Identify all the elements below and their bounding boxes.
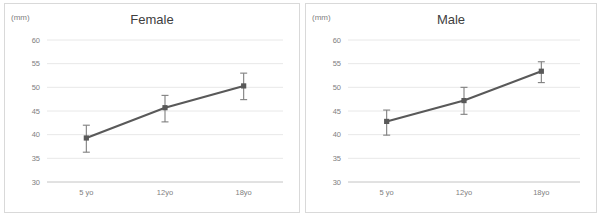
y-tick-label: 55 (333, 59, 341, 68)
data-point-marker (539, 69, 544, 74)
x-category-label: 5 yo (380, 188, 394, 197)
y-tick-label: 40 (32, 130, 40, 139)
chart-panel-female: (mm)Female303540455055605 yo12yo18yo (4, 3, 300, 213)
y-tick-label: 45 (333, 107, 341, 116)
male-plot: (mm)Male303540455055605 yo12yo18yo (312, 12, 580, 197)
y-tick-label: 50 (32, 83, 40, 92)
y-axis-unit-label: (mm) (312, 13, 331, 22)
chart-title: Female (130, 12, 173, 27)
chart-panel-male: (mm)Male303540455055605 yo12yo18yo (305, 3, 597, 213)
y-tick-label: 30 (32, 178, 40, 187)
x-category-label: 5 yo (79, 188, 93, 197)
data-point-marker (84, 135, 89, 140)
x-category-label: 18yo (236, 188, 252, 197)
y-tick-label: 35 (333, 154, 341, 163)
y-tick-label: 60 (333, 36, 341, 45)
chart-title: Male (437, 12, 465, 27)
y-tick-label: 50 (333, 83, 341, 92)
y-tick-label: 60 (32, 36, 40, 45)
data-point-marker (241, 83, 246, 88)
x-category-label: 12yo (157, 188, 173, 197)
y-tick-label: 30 (333, 178, 341, 187)
y-axis-unit-label: (mm) (11, 13, 30, 22)
female-plot: (mm)Female303540455055605 yo12yo18yo (11, 12, 283, 197)
x-category-label: 18yo (533, 188, 549, 197)
data-point-marker (162, 105, 167, 110)
y-tick-label: 35 (32, 154, 40, 163)
y-tick-label: 45 (32, 107, 40, 116)
male-chart-svg: (mm)Male303540455055605 yo12yo18yo (306, 4, 596, 212)
data-point-marker (384, 119, 389, 124)
data-point-marker (461, 98, 466, 103)
y-tick-label: 40 (333, 130, 341, 139)
female-chart-svg: (mm)Female303540455055605 yo12yo18yo (5, 4, 299, 212)
y-tick-label: 55 (32, 59, 40, 68)
figure-container: (mm)Female303540455055605 yo12yo18yo (mm… (0, 0, 605, 216)
x-category-label: 12yo (456, 188, 472, 197)
